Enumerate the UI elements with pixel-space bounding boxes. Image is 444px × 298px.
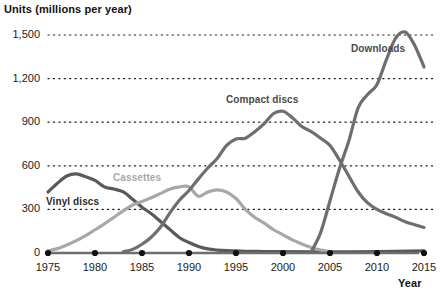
x-axis-tick-dot bbox=[421, 250, 427, 256]
series-label-cassettes: Cassettes bbox=[113, 172, 161, 183]
x-axis-tick-dot bbox=[374, 250, 380, 256]
x-axis-tick-dot bbox=[233, 250, 239, 256]
x-axis-tick-dot bbox=[45, 250, 51, 256]
series-line bbox=[48, 174, 424, 252]
series-label-vinyl-discs: Vinyl discs bbox=[46, 196, 99, 207]
x-axis-tick-dot bbox=[92, 250, 98, 256]
series-label-downloads: Downloads bbox=[351, 43, 405, 54]
x-axis-tick-dot bbox=[139, 250, 145, 256]
x-axis-tick-dot bbox=[186, 250, 192, 256]
x-axis-tick-dot bbox=[280, 250, 286, 256]
line-chart: Units (millions per year) Year 030060090… bbox=[0, 0, 444, 298]
series-label-compact-discs: Compact discs bbox=[226, 94, 298, 105]
x-axis-tick-dot bbox=[327, 250, 333, 256]
